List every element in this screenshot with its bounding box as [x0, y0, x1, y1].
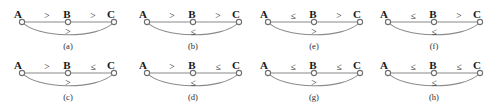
operator-ab: > [169, 11, 174, 21]
vertex-label-b: B [188, 8, 196, 20]
operator-ac: > [65, 78, 70, 88]
vertex-label-b: B [429, 59, 437, 71]
node-a [19, 70, 24, 75]
panel-caption: (d) [188, 92, 198, 102]
node-a [144, 19, 149, 24]
operator-ab: ≤ [290, 62, 295, 72]
vertex-label-c: C [232, 8, 240, 20]
vertex-label-a: A [139, 59, 147, 71]
vertex-label-b: B [429, 8, 437, 20]
node-c [111, 70, 116, 75]
panel-caption: (a) [63, 41, 73, 51]
operator-ab: > [44, 11, 49, 21]
node-c [236, 70, 241, 75]
vertex-label-a: A [139, 8, 147, 20]
node-b [311, 70, 316, 75]
vertex-label-b: B [63, 59, 71, 71]
node-a [19, 19, 24, 24]
node-b [190, 70, 195, 75]
operator-ab: ≤ [410, 11, 415, 21]
panel-f: ABC≤>≤(f) [374, 0, 497, 51]
operator-bc: > [456, 11, 461, 21]
panel-g: ABC≤≤>(g) [254, 51, 378, 102]
node-a [265, 19, 270, 24]
panel-h: ABC≤≤≤(h) [374, 51, 497, 102]
operator-ac: > [311, 27, 316, 37]
vertex-label-b: B [188, 59, 196, 71]
vertex-label-a: A [380, 59, 388, 71]
operator-bc: ≤ [336, 62, 341, 72]
panel-caption: (c) [63, 92, 73, 102]
operator-ac: > [65, 27, 70, 37]
vertex-label-c: C [107, 59, 115, 71]
vertex-label-a: A [260, 8, 268, 20]
comparison-graph-figure: ABC>>>(a)ABC>>≤(b)ABC≤>>(e)ABC≤>≤(f)ABC>… [0, 0, 497, 102]
operator-bc: ≤ [215, 62, 220, 72]
vertex-label-c: C [107, 8, 115, 20]
operator-ab: ≤ [410, 62, 415, 72]
vertex-label-a: A [14, 59, 22, 71]
node-c [477, 70, 482, 75]
vertex-label-a: A [380, 8, 388, 20]
operator-ac: ≤ [190, 78, 195, 88]
operator-ab: ≤ [290, 11, 295, 21]
vertex-label-b: B [309, 59, 317, 71]
operator-bc: > [90, 11, 95, 21]
operator-bc: > [336, 11, 341, 21]
vertex-label-c: C [473, 59, 481, 71]
node-c [111, 19, 116, 24]
node-b [65, 19, 70, 24]
node-c [477, 19, 482, 24]
panel-caption: (g) [309, 92, 319, 102]
node-c [236, 19, 241, 24]
operator-bc: > [215, 11, 220, 21]
node-a [385, 70, 390, 75]
panel-caption: (b) [188, 41, 198, 51]
vertex-label-c: C [473, 8, 481, 20]
operator-ac: > [311, 78, 316, 88]
vertex-label-b: B [309, 8, 317, 20]
panel-caption: (e) [309, 41, 319, 51]
node-b [431, 70, 436, 75]
vertex-label-a: A [14, 8, 22, 20]
operator-ac: ≤ [190, 27, 195, 37]
panel-e: ABC≤>>(e) [254, 0, 378, 51]
node-c [357, 70, 362, 75]
operator-ac: ≤ [431, 27, 436, 37]
operator-bc: ≤ [90, 62, 95, 72]
panel-d: ABC>≤≤(d) [133, 51, 257, 102]
panel-caption: (h) [429, 92, 439, 102]
node-b [431, 19, 436, 24]
panel-b: ABC>>≤(b) [133, 0, 257, 51]
vertex-label-c: C [353, 59, 361, 71]
vertex-label-c: C [232, 59, 240, 71]
node-a [385, 19, 390, 24]
panel-caption: (f) [430, 41, 439, 51]
node-b [311, 19, 316, 24]
node-a [144, 70, 149, 75]
operator-ab: > [44, 62, 49, 72]
node-b [190, 19, 195, 24]
node-b [65, 70, 70, 75]
node-a [265, 70, 270, 75]
panel-c: ABC>≤>(c) [8, 51, 132, 102]
panel-a: ABC>>>(a) [8, 0, 132, 51]
vertex-label-c: C [353, 8, 361, 20]
node-c [357, 19, 362, 24]
operator-bc: ≤ [456, 62, 461, 72]
vertex-label-a: A [260, 59, 268, 71]
operator-ab: > [169, 62, 174, 72]
operator-ac: ≤ [431, 78, 436, 88]
vertex-label-b: B [63, 8, 71, 20]
